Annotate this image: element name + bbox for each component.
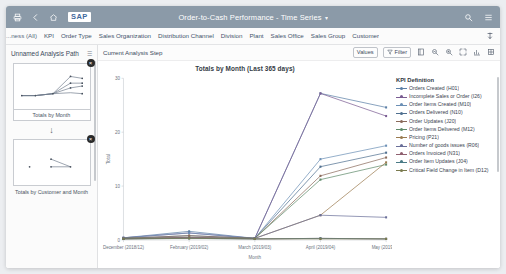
chart-area: Totals by Month (Last 365 days) 0102030T… [98, 61, 392, 268]
dimension-item-kpi[interactable]: KPI [44, 33, 54, 39]
menu-icon[interactable] [483, 12, 494, 23]
close-icon[interactable]: × [87, 59, 95, 67]
dimension-item-customer[interactable]: Customer [352, 33, 379, 39]
legend-marker-icon [396, 144, 407, 149]
dimension-bar-actions [479, 32, 494, 41]
legend-item[interactable]: Order Updates (J20) [396, 119, 498, 125]
svg-text:Total: Total [106, 154, 111, 164]
svg-text:Month: Month [249, 255, 262, 260]
expand-collapse-icon[interactable] [485, 32, 494, 41]
legend-item[interactable]: Orders Delivered (N10) [396, 110, 498, 116]
legend-scrollbar[interactable] [497, 77, 499, 172]
legend-item[interactable]: Order Items Delivered (M12) [396, 127, 498, 133]
legend-marker-icon [396, 152, 407, 157]
legend-item-label: Orders Created (H01) [409, 86, 459, 92]
legend-item[interactable]: Order Items Created (M10) [396, 102, 498, 108]
legend-item-label: Order Items Delivered (M12) [409, 127, 475, 133]
app-root: SAP Order-to-Cash Performance - Time Ser… [0, 0, 506, 274]
shell-bar: SAP Order-to-Cash Performance - Time Ser… [6, 6, 500, 28]
legend-items: Orders Created (H01)Incomplete Sales or … [396, 86, 498, 174]
fullscreen-icon[interactable] [458, 48, 467, 57]
search-icon[interactable] [463, 12, 474, 23]
dimension-item-sales-organization[interactable]: Sales Organization [99, 33, 151, 39]
legend-marker-icon [396, 160, 407, 165]
zoom-in-icon[interactable] [444, 48, 453, 57]
legend-marker-icon [396, 168, 407, 173]
filter-button[interactable]: Filter [383, 47, 411, 58]
legend-item-label: Orders Invoiced (N31) [409, 151, 460, 157]
chart-legend: KPI Definition Orders Created (H01)Incom… [392, 61, 500, 268]
legend-item-label: Critical Field Change in Item (D12) [409, 168, 489, 174]
legend-item[interactable]: Order Item Updates (J04) [396, 159, 498, 165]
analysis-path-node-1-label[interactable]: Totals by Month [13, 110, 91, 121]
svg-text:March (2019/03): March (2019/03) [238, 244, 271, 249]
chart-region: Totals by Month (Last 365 days) 0102030T… [98, 61, 500, 268]
dimension-item-division[interactable]: Division [221, 33, 243, 39]
legend-item-label: Incomplete Sales or Order (I26) [409, 94, 482, 100]
shell-bar-left-actions: SAP [12, 12, 91, 23]
page-title-dropdown[interactable] [168, 6, 338, 28]
analysis-path-node-2[interactable]: × Totals by Customer and Month [13, 139, 91, 197]
values-button[interactable]: Values [353, 47, 378, 58]
legend-item[interactable]: Incomplete Sales or Order (I26) [396, 94, 498, 100]
legend-item[interactable]: Critical Field Change in Item (D12) [396, 168, 498, 174]
chart-toolbar: Current Analysis Step Values Filter [98, 45, 500, 61]
application-window: SAP Order-to-Cash Performance - Time Ser… [6, 6, 500, 268]
dimension-item-sales-group[interactable]: Sales Group [311, 33, 345, 39]
print-icon[interactable] [12, 12, 23, 23]
chart-plot[interactable]: 0102030TotalDecember (2018/12)February (… [98, 74, 392, 268]
legend-marker-icon [396, 111, 407, 116]
dimension-item-business[interactable]: ...ness (All) [6, 33, 37, 39]
dimension-item-distribution-channel[interactable]: Distribution Channel [158, 33, 214, 39]
legend-item-label: Order Item Updates (J04) [409, 159, 468, 165]
back-icon[interactable] [30, 12, 41, 23]
legend-item-label: Order Items Created (M10) [409, 102, 471, 108]
legend-marker-icon [396, 119, 407, 124]
chart-type-icon[interactable] [472, 48, 481, 57]
analysis-path-sidebar: Unnamed Analysis Path ☰ × [6, 45, 98, 268]
dimension-item-plant[interactable]: Plant [249, 33, 263, 39]
svg-text:February (2019/02): February (2019/02) [170, 244, 209, 249]
analysis-path-header: Unnamed Analysis Path ☰ [11, 50, 92, 57]
shell-bar-right-actions [463, 12, 494, 23]
legend-marker-icon [396, 103, 407, 108]
settings-grid-icon[interactable] [486, 48, 495, 57]
analysis-path-node-1[interactable]: × Total [13, 63, 91, 121]
legend-marker-icon [396, 135, 407, 140]
dimension-item-order-type[interactable]: Order Type [61, 33, 92, 39]
legend-item[interactable]: Number of goods issues (R06) [396, 143, 498, 149]
legend-title: KPI Definition [396, 77, 498, 83]
analysis-path-node-2-label[interactable]: Totals by Customer and Month [13, 186, 91, 197]
zoom-out-icon[interactable] [430, 48, 439, 57]
dimension-filter-bar: ...ness (All) KPI Order Type Sales Organ… [6, 28, 500, 45]
svg-text:May (2019/05): May (2019/05) [372, 244, 392, 249]
legend-item[interactable]: Orders Invoiced (N31) [396, 151, 498, 157]
home-icon[interactable] [48, 12, 59, 23]
filter-button-label: Filter [395, 49, 407, 56]
legend-marker-icon [396, 95, 407, 100]
app-body: Unnamed Analysis Path ☰ × [6, 45, 500, 268]
legend-item-label: Pricing (P21) [409, 135, 439, 141]
legend-item-label: Order Updates (J20) [409, 119, 456, 125]
legend-item-label: Orders Delivered (N10) [409, 110, 463, 116]
legend-icon[interactable] [416, 48, 425, 57]
svg-text:0: 0 [118, 238, 121, 243]
svg-text:10: 10 [115, 184, 120, 189]
close-icon[interactable]: × [87, 135, 95, 143]
svg-text:April (2019/04): April (2019/04) [306, 244, 336, 249]
sidebar-scrollbar[interactable] [94, 61, 96, 181]
legend-item[interactable]: Orders Created (H01) [396, 86, 498, 92]
legend-marker-icon [396, 127, 407, 132]
sap-logo: SAP [68, 12, 91, 22]
legend-marker-icon [396, 86, 407, 91]
analysis-path-title: Unnamed Analysis Path [11, 50, 79, 57]
analysis-path-node-1-thumbnail[interactable] [13, 63, 91, 110]
svg-text:30: 30 [115, 76, 120, 81]
analysis-path-node-2-thumbnail[interactable] [13, 139, 91, 186]
legend-item[interactable]: Pricing (P21) [396, 135, 498, 141]
overflow-menu-icon[interactable]: ☰ [87, 51, 92, 57]
current-analysis-step-label: Current Analysis Step [103, 49, 163, 56]
chart-title: Totals by Month (Last 365 days) [98, 61, 392, 72]
chart-plot-svg[interactable]: 0102030TotalDecember (2018/12)February (… [98, 74, 392, 268]
dimension-item-sales-office[interactable]: Sales Office [271, 33, 304, 39]
